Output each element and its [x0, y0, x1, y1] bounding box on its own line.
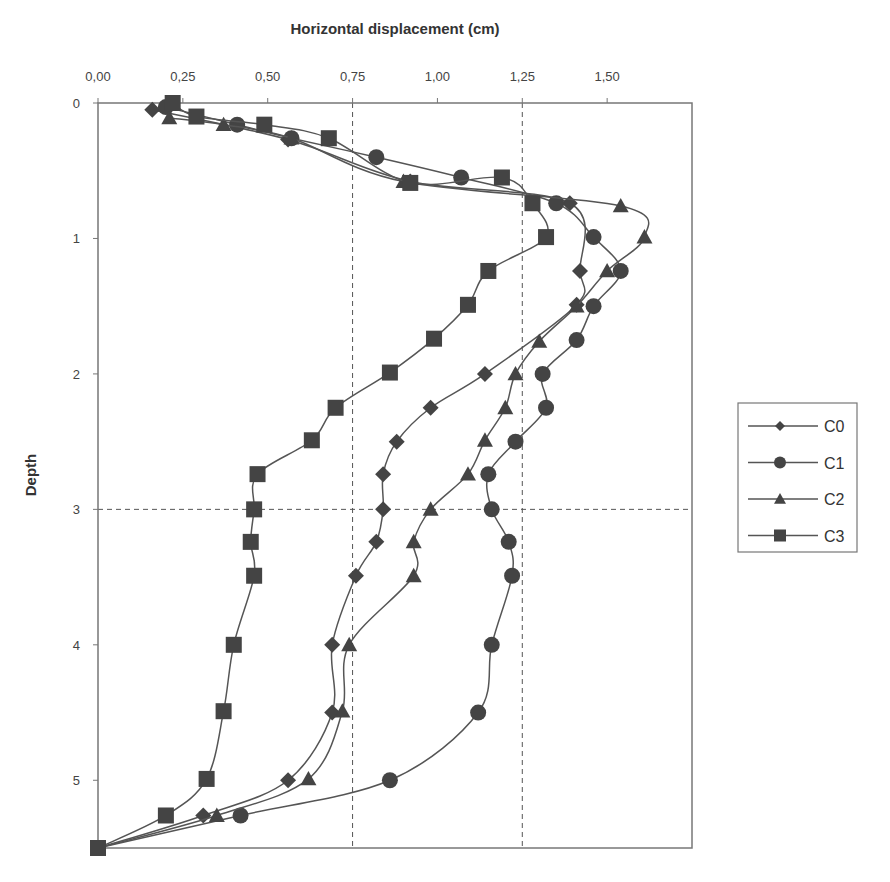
x-tick-label: 1,25	[510, 69, 535, 84]
diamond-marker	[572, 263, 588, 279]
circle-marker	[382, 772, 398, 788]
circle-marker	[507, 434, 523, 450]
square-marker	[321, 130, 337, 146]
triangle-marker	[497, 400, 513, 414]
series-line	[98, 110, 585, 848]
circle-marker	[613, 263, 629, 279]
legend: C0C1C2C3	[738, 403, 857, 552]
x-tick-label: 0,50	[255, 69, 280, 84]
legend-label-c2: C2	[824, 491, 845, 508]
legend-label-c3: C3	[824, 528, 845, 545]
diamond-marker	[375, 501, 391, 517]
circle-marker	[501, 534, 517, 550]
diamond-marker	[477, 366, 493, 382]
square-marker	[538, 229, 554, 245]
series-line	[98, 118, 649, 848]
square-marker	[256, 117, 272, 133]
square-marker	[774, 530, 786, 542]
y-tick-label: 5	[73, 773, 80, 788]
circle-marker	[484, 501, 500, 517]
square-marker	[250, 466, 266, 482]
diamond-marker	[375, 466, 391, 482]
square-marker	[304, 432, 320, 448]
square-marker	[246, 568, 262, 584]
y-tick-label: 4	[73, 638, 80, 653]
triangle-marker	[406, 534, 422, 548]
triangle-marker	[406, 568, 422, 582]
legend-label-c1: C1	[824, 455, 845, 472]
circle-marker	[586, 298, 602, 314]
circle-marker	[535, 366, 551, 382]
y-tick-label: 3	[73, 502, 80, 517]
square-marker	[158, 807, 174, 823]
legend-label-c0: C0	[824, 418, 845, 435]
series-c1	[90, 99, 629, 856]
triangle-marker	[460, 466, 476, 480]
reference-lines	[98, 103, 692, 848]
circle-marker	[480, 466, 496, 482]
square-marker	[328, 400, 344, 416]
x-tick-label: 0,75	[340, 69, 365, 84]
square-marker	[90, 840, 106, 856]
square-marker	[199, 771, 215, 787]
circle-marker	[774, 457, 786, 469]
square-marker	[494, 170, 510, 186]
triangle-marker	[341, 637, 357, 651]
circle-marker	[484, 637, 500, 653]
square-marker	[216, 703, 232, 719]
square-marker	[188, 109, 204, 125]
circle-marker	[569, 332, 585, 348]
diamond-marker	[368, 534, 384, 550]
square-marker	[226, 637, 242, 653]
diamond-marker	[144, 102, 160, 118]
square-marker	[524, 195, 540, 211]
square-marker	[426, 331, 442, 347]
square-marker	[246, 501, 262, 517]
x-tick-label: 1,00	[425, 69, 450, 84]
series-c2	[90, 110, 652, 855]
square-marker	[480, 263, 496, 279]
diamond-marker	[423, 400, 439, 416]
y-tick-label: 2	[73, 367, 80, 382]
square-marker	[243, 534, 259, 550]
circle-marker	[538, 400, 554, 416]
diamond-marker	[348, 568, 364, 584]
diamond-marker	[324, 637, 340, 653]
diamond-marker	[389, 434, 405, 450]
plot-frame	[98, 103, 692, 848]
circle-marker	[229, 117, 245, 133]
square-marker	[402, 175, 418, 191]
chart-title: Horizontal displacement (cm)	[290, 20, 499, 37]
square-marker	[460, 297, 476, 313]
y-axis-label: Depth	[22, 454, 39, 497]
triangle-marker	[477, 432, 493, 446]
square-marker	[382, 365, 398, 381]
square-marker	[165, 95, 181, 111]
axes: 0,000,250,500,751,001,251,50012345	[73, 69, 692, 848]
circle-marker	[504, 568, 520, 584]
triangle-marker	[507, 366, 523, 380]
circle-marker	[453, 170, 469, 186]
series-line	[98, 107, 621, 848]
x-tick-label: 0,00	[85, 69, 110, 84]
y-tick-label: 0	[73, 96, 80, 111]
circle-marker	[470, 705, 486, 721]
y-tick-label: 1	[73, 231, 80, 246]
x-tick-label: 0,25	[170, 69, 195, 84]
series-c0	[90, 102, 588, 856]
triangle-marker	[636, 229, 652, 243]
circle-marker	[586, 229, 602, 245]
data-series	[90, 95, 652, 856]
chart: 0,000,250,500,751,001,251,50012345 Horiz…	[0, 0, 890, 882]
x-tick-label: 1,50	[594, 69, 619, 84]
